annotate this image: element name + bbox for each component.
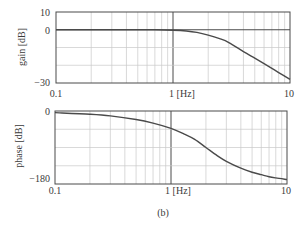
gain-ytick-minus30: −30	[34, 77, 50, 88]
figure-caption: (b)	[157, 207, 169, 219]
gain-xtick-0.1: 0.1	[50, 88, 63, 99]
bode-figure: 10 0 −30 0.1 1 [Hz] 10 gain [dB] 0 −180 …	[0, 0, 308, 228]
gain-grid	[56, 12, 290, 83]
phase-plot: 0 −180 0.1 1 [Hz] 10 phase [dB]	[13, 106, 291, 196]
gain-xtick-10: 10	[284, 88, 294, 99]
phase-ytick-0: 0	[45, 106, 50, 117]
gain-ylabel: gain [dB]	[16, 28, 27, 66]
phase-xtick-0.1: 0.1	[49, 185, 62, 196]
phase-ytick-minus180: −180	[29, 173, 50, 184]
phase-ylabel: phase [dB]	[13, 124, 24, 168]
gain-ytick-0: 0	[45, 25, 50, 36]
gain-plot: 10 0 −30 0.1 1 [Hz] 10 gain [dB]	[16, 7, 294, 99]
gain-ytick-10: 10	[40, 7, 50, 18]
phase-xtick-10: 10	[281, 185, 291, 196]
phase-xtick-1hz: 1 [Hz]	[165, 185, 191, 196]
gain-xtick-1hz: 1 [Hz]	[169, 88, 195, 99]
phase-grid	[55, 111, 287, 184]
